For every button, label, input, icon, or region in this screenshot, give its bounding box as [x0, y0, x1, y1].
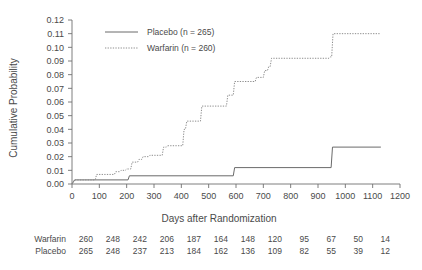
risk-count-cell: 50	[336, 234, 363, 246]
risk-count-cell: 260	[66, 234, 93, 246]
x-tick-label: 500	[201, 191, 216, 201]
x-tick-label: 1200	[390, 191, 410, 201]
x-tick-label: 600	[228, 191, 243, 201]
risk-table-row: Warfarin26024824220618716414812095675014	[18, 234, 390, 246]
y-tick-label: 0.10	[46, 43, 64, 53]
legend: Placebo (n = 265) Warfarin (n = 260)	[105, 27, 216, 53]
x-tick-label-group: 0100200300400500600700800900100011001200	[69, 191, 410, 201]
risk-count-cell: 148	[228, 234, 255, 246]
risk-row-label: Warfarin	[18, 234, 66, 246]
y-tick-label: 0.07	[46, 84, 64, 94]
risk-count-cell: 265	[66, 246, 93, 258]
risk-table: Warfarin26024824220618716414812095675014…	[18, 234, 390, 257]
risk-count-cell: 12	[363, 246, 390, 258]
risk-count-cell: 206	[147, 234, 174, 246]
risk-table-row: Placebo26524823721318416213610982553912	[18, 246, 390, 258]
y-tick-label: 0.02	[46, 152, 64, 162]
risk-count-cell: 213	[147, 246, 174, 258]
risk-count-cell: 162	[201, 246, 228, 258]
legend-label-warfarin: Warfarin (n = 260)	[147, 43, 216, 53]
x-tick-label: 1000	[335, 191, 355, 201]
y-tick-label: 0.01	[46, 166, 64, 176]
y-tick-label: 0.11	[47, 29, 64, 39]
risk-count-cell: 187	[174, 234, 201, 246]
y-tick-group	[68, 20, 72, 184]
risk-count-cell: 109	[255, 246, 282, 258]
risk-count-cell: 248	[93, 246, 120, 258]
risk-row-label: Placebo	[18, 246, 66, 258]
x-tick-label: 1100	[363, 191, 382, 201]
x-tick-label: 900	[310, 191, 325, 201]
y-tick-label: 0.00	[46, 179, 64, 189]
x-tick-label: 400	[174, 191, 189, 201]
x-tick-label: 800	[283, 191, 298, 201]
y-axis-title: Cumulative Probability	[8, 58, 19, 158]
y-tick-label: 0.03	[46, 138, 64, 148]
risk-count-cell: 164	[201, 234, 228, 246]
series-warfarin-curve	[72, 34, 381, 184]
y-axis: 0.000.010.020.030.040.050.060.070.080.09…	[46, 15, 72, 189]
risk-count-cell: 136	[228, 246, 255, 258]
x-axis-title: Days after Randomization	[161, 213, 276, 224]
risk-count-cell: 39	[336, 246, 363, 258]
risk-count-cell: 55	[309, 246, 336, 258]
chart-area: 0.000.010.020.030.040.050.060.070.080.09…	[0, 0, 422, 232]
risk-count-cell: 237	[120, 246, 147, 258]
plot-curves	[72, 34, 381, 184]
x-tick-label: 300	[146, 191, 161, 201]
risk-count-cell: 242	[120, 234, 147, 246]
y-tick-label: 0.05	[46, 111, 64, 121]
x-tick-group	[72, 184, 400, 188]
risk-count-cell: 14	[363, 234, 390, 246]
x-tick-label: 100	[92, 191, 107, 201]
figure-root: 0.000.010.020.030.040.050.060.070.080.09…	[0, 0, 422, 270]
risk-count-cell: 184	[174, 246, 201, 258]
y-tick-label: 0.04	[46, 125, 64, 135]
risk-count-cell: 82	[282, 246, 309, 258]
x-tick-label: 0	[69, 191, 74, 201]
x-tick-label: 700	[256, 191, 271, 201]
x-axis: 0100200300400500600700800900100011001200	[69, 184, 410, 201]
cumulative-probability-chart: 0.000.010.020.030.040.050.060.070.080.09…	[0, 0, 422, 232]
y-tick-label: 0.08	[46, 70, 64, 80]
risk-count-cell: 67	[309, 234, 336, 246]
risk-count-cell: 120	[255, 234, 282, 246]
y-tick-label: 0.12	[46, 15, 64, 25]
x-tick-label: 200	[119, 191, 134, 201]
risk-count-cell: 248	[93, 234, 120, 246]
y-tick-label-group: 0.000.010.020.030.040.050.060.070.080.09…	[46, 15, 64, 189]
y-tick-label: 0.09	[46, 56, 64, 66]
risk-count-cell: 95	[282, 234, 309, 246]
legend-label-placebo: Placebo (n = 265)	[147, 27, 215, 37]
y-tick-label: 0.06	[46, 97, 64, 107]
numbers-at-risk-table: Warfarin26024824220618716414812095675014…	[0, 232, 422, 270]
series-placebo-curve	[72, 147, 381, 184]
